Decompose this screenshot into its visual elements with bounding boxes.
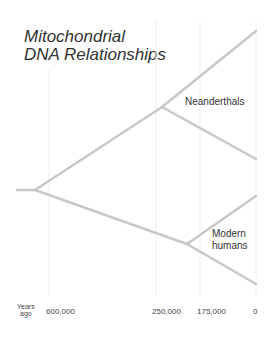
- axis-unit-line-1: Years: [17, 303, 35, 310]
- tick-0: 0: [253, 307, 257, 316]
- neanderthal-branch-lower: [162, 107, 256, 159]
- modern-humans-line-1: Modern: [212, 228, 248, 240]
- axis-unit-line-2: ago: [17, 310, 35, 317]
- neanderthals-label: Neanderthals: [185, 96, 244, 107]
- phylogenetic-tree: [0, 0, 273, 341]
- tick-250000: 250,000: [152, 307, 181, 316]
- tick-600000: 600,000: [46, 307, 75, 316]
- modern-humans-line-2: humans: [212, 240, 248, 252]
- branch-to-modern-node: [35, 190, 187, 244]
- branch-to-neanderthal-node: [35, 107, 162, 190]
- modern-humans-label: Modern humans: [212, 228, 248, 252]
- axis-unit-label: Years ago: [17, 303, 35, 317]
- tick-175000: 175,000: [197, 307, 226, 316]
